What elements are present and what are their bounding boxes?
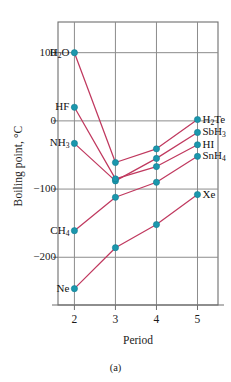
point-label-h2te: H2Te [202, 114, 225, 125]
point-label-xe: Xe [202, 189, 215, 200]
x-tick-label: 3 [105, 313, 125, 325]
y-axis-ticks: 1000−100−200 [0, 0, 56, 382]
figure-caption: (a) [0, 362, 231, 373]
y-tick-label: −200 [10, 251, 56, 262]
y-tick-label: −100 [10, 183, 56, 194]
point-label-hf: HF [55, 101, 69, 112]
point-label-ch4: CH4 [50, 225, 69, 236]
x-axis-label: Period [58, 334, 218, 346]
point-label-h2o: H2O [50, 47, 70, 58]
point-label-sbh3: SbH3 [202, 126, 225, 137]
y-tick-label: 0 [10, 115, 56, 126]
figure-container: Boiling point, °C 1000−100−200 2345 Peri… [0, 0, 231, 382]
x-tick-label: 5 [187, 313, 207, 325]
point-label-hi: HI [202, 139, 214, 150]
point-label-nh3: NH3 [50, 137, 70, 148]
x-tick-label: 2 [64, 313, 84, 325]
point-label-ne: Ne [57, 283, 70, 294]
x-tick-label: 4 [146, 313, 166, 325]
point-label-snh4: SnH4 [202, 150, 225, 161]
